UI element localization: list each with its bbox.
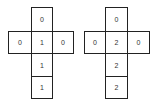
- left-net-below1-cell: 1: [31, 53, 53, 77]
- right-net-center-cell: 2: [105, 31, 128, 54]
- right-net-right-cell: 0: [127, 31, 150, 54]
- right-net-below1-cell: 2: [105, 53, 128, 77]
- right-net-top-cell: 0: [105, 7, 128, 32]
- right-net-left-cell: 0: [84, 31, 106, 54]
- left-net-top-cell: 0: [31, 7, 53, 32]
- right-net-below2-cell: 2: [105, 76, 128, 99]
- left-net-center-cell: 1: [31, 31, 53, 54]
- left-net-right-cell: 0: [52, 31, 74, 54]
- left-net-left-cell: 0: [8, 31, 32, 54]
- left-net-below2-cell: 1: [31, 76, 53, 99]
